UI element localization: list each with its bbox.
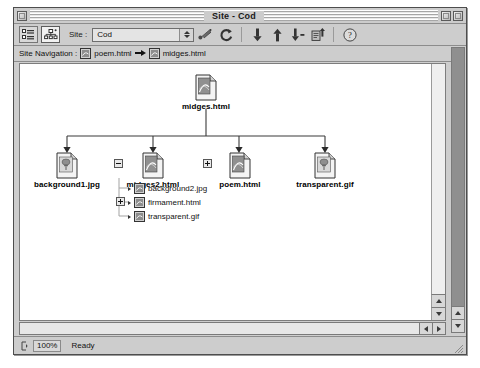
refresh-icon[interactable] [217, 26, 234, 43]
resize-grip-icon[interactable] [452, 340, 464, 352]
tree-subitem-transparent-label: transparent.gif [148, 212, 199, 221]
tree-subitem-transparent[interactable]: transparent.gif [128, 211, 199, 222]
status-bar: 100% Ready [14, 336, 466, 354]
title-bar: Site - Cod [14, 8, 466, 24]
breadcrumb-label-midges: midges.html [163, 49, 206, 58]
connect-icon[interactable] [197, 26, 214, 43]
incremental-download-icon[interactable] [289, 26, 306, 43]
tree-subitem-background2-label: background2.jpg [148, 184, 207, 193]
tree-node-transparent-label: transparent.gif [285, 180, 365, 189]
tree-expander-midges2[interactable] [114, 159, 123, 168]
view-navigation-button[interactable] [41, 26, 60, 43]
tree-node-transparent[interactable]: transparent.gif [285, 152, 365, 189]
pane-scroll-down-button[interactable] [431, 307, 445, 320]
small-page-icon [134, 183, 145, 194]
svg-text:?: ? [348, 30, 352, 40]
scroll-left-button[interactable] [419, 323, 432, 334]
content-area: midges.html background1.jpg [14, 63, 466, 335]
help-icon[interactable]: ? [341, 26, 358, 43]
status-message: Ready [71, 341, 94, 350]
window-vertical-scrollbar[interactable] [451, 47, 465, 333]
zoom-popup-icon[interactable] [19, 340, 29, 351]
tree-expander-firmament[interactable] [116, 197, 125, 206]
pane-scroll-up-button[interactable] [431, 294, 445, 307]
navigation-view-icon [44, 29, 58, 41]
bullet-icon [128, 201, 131, 205]
site-label: Site : [69, 30, 87, 39]
upload-icon[interactable] [269, 26, 286, 43]
image-file-icon [314, 152, 336, 179]
html-page-icon [142, 152, 164, 179]
site-popup-value: Cod [93, 30, 112, 39]
tree-node-root-label: midges.html [180, 102, 232, 111]
view-list-button[interactable] [19, 26, 38, 43]
window-title: Site - Cod [204, 11, 264, 21]
html-page-icon [149, 48, 160, 59]
html-page-icon [195, 74, 217, 101]
html-page-icon [80, 48, 91, 59]
zoom-box-button[interactable] [441, 11, 451, 21]
breadcrumb-label-poem: poem.html [94, 49, 131, 58]
html-page-icon [229, 152, 251, 179]
bullet-icon [128, 215, 131, 219]
tree-node-background1[interactable]: background1.jpg [27, 152, 107, 189]
tree-subitem-firmament-label: firmament.html [148, 198, 201, 207]
tree-node-background1-label: background1.jpg [27, 180, 107, 189]
toolbar: Site : Cod [14, 24, 466, 46]
scroll-right-button[interactable] [432, 323, 445, 334]
window-scroll-up-button[interactable] [452, 306, 464, 319]
tree-connector-lines [20, 64, 446, 321]
breadcrumb-item-midges[interactable]: midges.html [149, 48, 206, 59]
tree-subitem-background2[interactable]: background2.jpg [128, 183, 207, 194]
tree-node-root[interactable]: midges.html [180, 74, 232, 111]
scroll-thumb[interactable] [452, 48, 464, 306]
breadcrumb-arrow-icon [135, 49, 146, 58]
toolbar-separator [241, 27, 242, 42]
site-map-pane[interactable]: midges.html background1.jpg [19, 63, 446, 321]
tree-node-poem[interactable]: poem.html [214, 152, 266, 189]
window-scroll-down-button[interactable] [452, 319, 464, 332]
site-map-canvas[interactable]: midges.html background1.jpg [20, 64, 445, 320]
site-navigation-bar: Site Navigation : poem.html midges.html [14, 46, 451, 62]
close-box-button[interactable] [17, 11, 27, 21]
toolbar-separator-2 [333, 27, 334, 42]
tree-expander-poem[interactable] [203, 159, 212, 168]
download-icon[interactable] [249, 26, 266, 43]
pane-horizontal-scrollbar[interactable] [19, 322, 446, 335]
bullet-icon [128, 187, 131, 191]
site-window: Site - Cod [13, 7, 467, 355]
site-navigation-label: Site Navigation : [19, 49, 77, 58]
breadcrumb-item-poem[interactable]: poem.html [80, 48, 131, 59]
small-page-icon [134, 197, 145, 208]
tree-subitem-firmament[interactable]: firmament.html [128, 197, 201, 208]
collapse-box-button[interactable] [453, 11, 463, 21]
zoom-level-value[interactable]: 100% [33, 340, 61, 352]
publish-icon[interactable] [309, 26, 326, 43]
site-popup-menu[interactable]: Cod [92, 28, 194, 42]
small-page-icon [134, 211, 145, 222]
pane-vertical-scrollbar[interactable] [431, 64, 445, 320]
title-bar-stripes[interactable]: Site - Cod [30, 10, 438, 21]
chevron-updown-icon [179, 29, 193, 41]
list-view-icon [22, 29, 35, 40]
image-file-icon [56, 152, 78, 179]
tree-node-poem-label: poem.html [214, 180, 266, 189]
